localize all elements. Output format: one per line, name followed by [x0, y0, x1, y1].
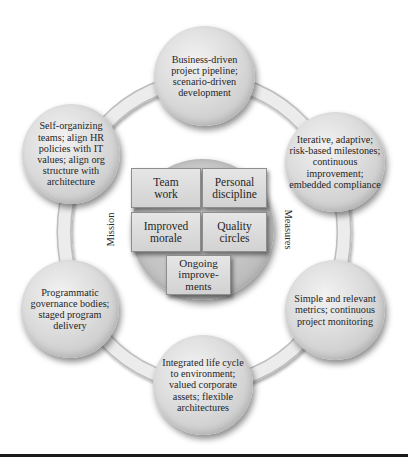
box-label: Personal discipline: [207, 176, 263, 201]
box-quality-circles: Quality circles: [202, 212, 267, 252]
box-personal-discipline: Personal discipline: [202, 168, 267, 208]
node-label: Simple and relevant metrics; continuous …: [285, 293, 385, 327]
box-label: Team work: [146, 176, 186, 201]
measures-label: Measures: [283, 209, 294, 249]
box-ongoing-improvements: Ongoing improve-ments: [166, 255, 231, 295]
box-label: Improved morale: [137, 220, 195, 245]
node-label: Programmatic governance bodies; staged p…: [21, 287, 119, 332]
box-improved-morale: Improved morale: [131, 212, 201, 252]
box-label: Quality circles: [213, 220, 257, 245]
box-label: Ongoing improve-ments: [172, 258, 226, 293]
node-label: Business-driven project pipeline; scenar…: [154, 54, 255, 99]
bottom-rule: [0, 454, 408, 457]
node-label: Self-organizing teams; align HR policies…: [22, 120, 120, 187]
mission-label: Mission: [105, 213, 116, 247]
cycle-diagram: Mission Measures Business-driven project…: [0, 0, 408, 465]
node-simple-metrics: Simple and relevant metrics; continuous …: [285, 260, 385, 360]
node-label: Iterative, adaptive; risk-based mileston…: [285, 134, 385, 190]
node-programmatic-governance: Programmatic governance bodies; staged p…: [21, 260, 119, 358]
node-iterative-adaptive: Iterative, adaptive; risk-based mileston…: [285, 112, 385, 212]
box-team-work: Team work: [131, 168, 201, 208]
node-label: Integrated life cycle to environment; va…: [153, 357, 253, 413]
node-self-organizing: Self-organizing teams; align HR policies…: [22, 104, 120, 204]
node-integrated-lifecycle: Integrated life cycle to environment; va…: [153, 335, 253, 435]
node-business-driven: Business-driven project pipeline; scenar…: [154, 26, 255, 126]
